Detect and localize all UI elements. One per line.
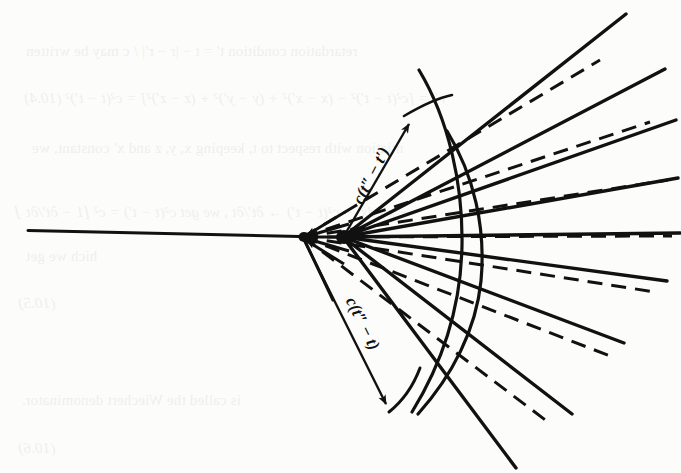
dashed-ray-7 (303, 237, 548, 422)
horizontal-baseline (28, 231, 300, 237)
right-vertex (336, 230, 352, 244)
lower-arrow-label: c(t″ − t) (342, 294, 384, 353)
wavefront-diagram: c(t″ − t′) c(t″ − t) (0, 0, 681, 473)
solid-ray-4 (343, 178, 678, 237)
dashed-ray-2 (303, 122, 650, 237)
solid-ray-1 (343, 14, 626, 237)
solid-ray-3 (343, 120, 676, 237)
figure-page: retardation condition t′ = t − |r − r′| … (0, 0, 681, 473)
solid-ray-group (343, 14, 680, 468)
outer-wavefront-arc (418, 131, 482, 414)
